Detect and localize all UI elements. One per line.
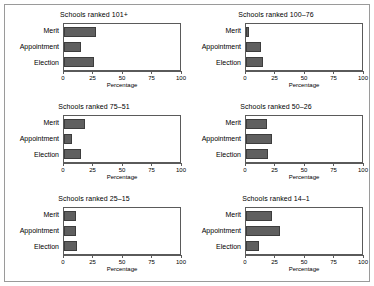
category-label-appointment: Appointment xyxy=(187,43,243,51)
category-label-merit: Merit xyxy=(187,119,243,127)
panel-title: Schools ranked 14–1 xyxy=(187,195,365,202)
x-axis-tick xyxy=(304,71,305,74)
x-axis-tick-label: 75 xyxy=(330,75,337,81)
bar-row xyxy=(64,226,180,236)
x-axis-tick xyxy=(274,71,275,74)
x-axis-tick-label: 100 xyxy=(358,259,368,265)
category-label-election: Election xyxy=(5,243,61,251)
category-label-merit: Merit xyxy=(5,211,61,219)
category-axis-labels: MeritAppointmentElection xyxy=(5,115,61,163)
x-axis: 0255075100Percentage xyxy=(63,71,181,91)
panel-title: Schools ranked 25–15 xyxy=(5,195,183,202)
x-axis-tick xyxy=(63,71,64,74)
x-axis-tick xyxy=(245,163,246,166)
x-axis-tick-label: 75 xyxy=(148,259,155,265)
bar-series xyxy=(246,208,362,254)
bar-election xyxy=(64,149,81,159)
x-axis-tick xyxy=(181,255,182,258)
x-axis-tick xyxy=(274,255,275,258)
x-axis-tick xyxy=(304,255,305,258)
x-axis-tick xyxy=(363,71,364,74)
category-label-election: Election xyxy=(187,59,243,67)
x-axis-tick-label: 75 xyxy=(330,259,337,265)
x-axis-tick xyxy=(181,163,182,166)
category-label-election: Election xyxy=(5,151,61,159)
x-axis-tick-label: 0 xyxy=(61,75,64,81)
x-axis-tick-label: 50 xyxy=(119,75,126,81)
x-axis-tick-label: 50 xyxy=(301,259,308,265)
x-axis-tick-label: 0 xyxy=(61,167,64,173)
plot-region xyxy=(63,115,181,163)
bar-row xyxy=(246,226,362,236)
x-axis-tick-label: 0 xyxy=(243,75,246,81)
category-label-merit: Merit xyxy=(5,27,61,35)
x-axis: 0255075100Percentage xyxy=(63,255,181,275)
category-axis-labels: MeritAppointmentElection xyxy=(187,115,243,163)
x-axis-tick-label: 75 xyxy=(148,75,155,81)
bar-election xyxy=(246,57,263,67)
x-axis-tick xyxy=(151,71,152,74)
bar-series xyxy=(64,116,180,162)
bar-election xyxy=(246,149,268,159)
bar-appointment xyxy=(246,226,280,236)
x-axis-tick-label: 25 xyxy=(271,75,278,81)
category-label-merit: Merit xyxy=(187,27,243,35)
bar-row xyxy=(64,134,180,144)
x-axis-title: Percentage xyxy=(63,82,181,88)
bar-appointment xyxy=(246,42,261,52)
panel-1: Schools ranked 101+MeritAppointmentElect… xyxy=(5,5,187,97)
x-axis-tick xyxy=(333,255,334,258)
x-axis-tick-label: 25 xyxy=(89,259,96,265)
category-label-appointment: Appointment xyxy=(5,135,61,143)
category-label-appointment: Appointment xyxy=(187,135,243,143)
x-axis-tick-label: 100 xyxy=(176,259,186,265)
bar-row xyxy=(246,134,362,144)
bar-row xyxy=(246,27,362,37)
category-label-election: Election xyxy=(187,151,243,159)
bar-merit xyxy=(246,211,272,221)
x-axis-title: Percentage xyxy=(63,174,181,180)
x-axis-tick xyxy=(274,163,275,166)
bar-appointment xyxy=(64,134,72,144)
category-axis-labels: MeritAppointmentElection xyxy=(187,23,243,71)
panel-3: Schools ranked 75–51MeritAppointmentElec… xyxy=(5,97,187,189)
x-axis-tick xyxy=(122,255,123,258)
plot-region xyxy=(63,207,181,255)
x-axis-tick xyxy=(363,163,364,166)
plot-region xyxy=(245,115,363,163)
bar-series xyxy=(64,24,180,70)
x-axis-title: Percentage xyxy=(245,174,363,180)
category-label-merit: Merit xyxy=(5,119,61,127)
bar-row xyxy=(246,119,362,129)
x-axis-tick xyxy=(245,255,246,258)
x-axis-tick-label: 25 xyxy=(271,167,278,173)
x-axis-tick xyxy=(333,163,334,166)
panel-5: Schools ranked 25–15MeritAppointmentElec… xyxy=(5,189,187,281)
category-label-appointment: Appointment xyxy=(5,43,61,51)
bar-election xyxy=(246,241,259,251)
category-axis-labels: MeritAppointmentElection xyxy=(187,207,243,255)
panel-title: Schools ranked 50–26 xyxy=(187,103,365,110)
x-axis-tick-label: 100 xyxy=(176,75,186,81)
x-axis-tick xyxy=(63,163,64,166)
x-axis-tick-label: 75 xyxy=(330,167,337,173)
bar-row xyxy=(64,57,180,67)
x-axis-tick xyxy=(151,163,152,166)
bar-election xyxy=(64,57,94,67)
x-axis: 0255075100Percentage xyxy=(245,163,363,183)
bar-row xyxy=(246,42,362,52)
plot-region xyxy=(245,207,363,255)
x-axis-tick-label: 25 xyxy=(271,259,278,265)
x-axis-tick xyxy=(92,163,93,166)
x-axis-tick-label: 75 xyxy=(148,167,155,173)
x-axis-tick-label: 100 xyxy=(358,167,368,173)
category-axis-labels: MeritAppointmentElection xyxy=(5,23,61,71)
x-axis-tick-label: 50 xyxy=(301,75,308,81)
bar-series xyxy=(64,208,180,254)
bar-series xyxy=(246,116,362,162)
bar-row xyxy=(64,42,180,52)
x-axis-tick-label: 50 xyxy=(119,259,126,265)
bar-series xyxy=(246,24,362,70)
small-multiples-grid: Schools ranked 101+MeritAppointmentElect… xyxy=(5,5,369,281)
bar-merit xyxy=(64,27,96,37)
